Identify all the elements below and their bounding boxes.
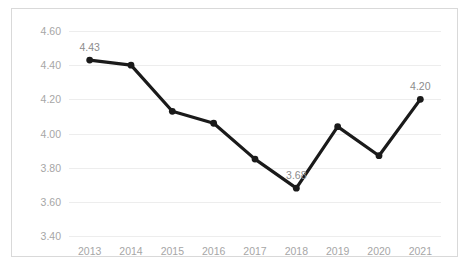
data-point-marker [334, 123, 341, 130]
plot-area: 3.403.603.804.004.204.404.60 20132014201… [69, 31, 441, 236]
x-axis-tick-label: 2021 [409, 245, 432, 257]
data-point-label: 4.43 [79, 41, 99, 53]
x-axis-tick-label: 2020 [367, 245, 390, 257]
series-line [90, 60, 421, 188]
data-point-marker [86, 57, 93, 64]
gridline [69, 236, 441, 237]
x-axis-tick-label: 2015 [161, 245, 184, 257]
data-point-marker [293, 185, 300, 192]
data-point-marker [210, 120, 217, 127]
x-axis-tick-label: 2018 [285, 245, 308, 257]
y-axis-tick-label: 4.40 [41, 59, 61, 71]
data-point-marker [376, 152, 383, 159]
data-point-marker [252, 156, 259, 163]
x-axis-tick-label: 2017 [243, 245, 266, 257]
x-axis-tick-label: 2016 [202, 245, 225, 257]
data-point-label: 4.20 [410, 80, 430, 92]
data-point-marker [169, 108, 176, 115]
data-point-marker [128, 62, 135, 69]
y-axis-tick-label: 3.80 [41, 162, 61, 174]
x-axis-tick-label: 2019 [326, 245, 349, 257]
data-point-marker [417, 96, 424, 103]
x-axis-tick-label: 2013 [78, 245, 101, 257]
x-axis-tick-label: 2014 [119, 245, 142, 257]
chart-frame: 3.403.603.804.004.204.404.60 20132014201… [11, 8, 458, 257]
y-axis-tick-label: 3.40 [41, 230, 61, 242]
y-axis-tick-label: 4.20 [41, 93, 61, 105]
y-axis-tick-label: 4.60 [41, 25, 61, 37]
y-axis-tick-label: 4.00 [41, 128, 61, 140]
y-axis-tick-label: 3.60 [41, 196, 61, 208]
data-point-label: 3.68 [286, 169, 306, 181]
cropped-title-sliver [10, 0, 130, 4]
line-series [69, 31, 441, 236]
